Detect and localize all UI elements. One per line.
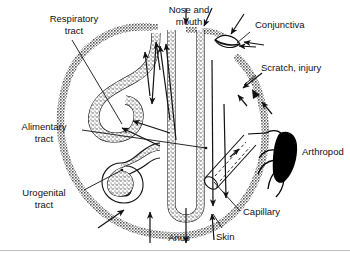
label-alimentary-tract-line2: tract (35, 133, 54, 144)
label-arthropod: Arthropod (302, 146, 344, 157)
figure-canvas: Respiratory tract Nose and mouth Conjunc… (0, 0, 350, 253)
anatomical-entry-routes-figure: Respiratory tract Nose and mouth Conjunc… (0, 0, 350, 253)
label-urogenital-tract-line2: tract (35, 199, 54, 210)
label-respiratory-tract-line2: tract (65, 25, 84, 36)
label-nose-and-mouth-line1: Nose and (169, 4, 210, 15)
label-anus: Anus (168, 232, 190, 243)
label-alimentary-tract-line1: Alimentary (22, 121, 67, 132)
label-nose-and-mouth-line2: mouth (176, 16, 202, 27)
label-capillary: Capillary (243, 206, 280, 217)
label-skin: Skin (216, 231, 234, 242)
label-urogenital-tract-line1: Urogenital (22, 187, 65, 198)
label-scratch-injury: Scratch, injury (261, 62, 321, 73)
label-conjunctiva: Conjunctiva (255, 19, 305, 30)
label-respiratory-tract-line1: Respiratory (50, 13, 99, 24)
